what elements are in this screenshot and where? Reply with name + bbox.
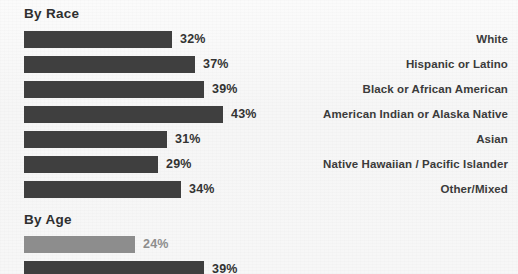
category-label-black-or-african-american: Black or African American [363, 83, 508, 95]
bar-asian [24, 131, 167, 148]
bar-white [24, 31, 172, 48]
category-label-white: White [476, 33, 508, 45]
bar-row-black-or-african-american: 39% Black or African American [0, 81, 518, 98]
category-label-native-hawaiian-pacific-islander: Native Hawaiian / Pacific Islander [323, 158, 508, 170]
bar-row-hispanic-or-latino: 37% Hispanic or Latino [0, 56, 518, 73]
category-label-asian: Asian [476, 133, 508, 145]
bar-row-other-mixed: 34% Other/Mixed [0, 181, 518, 198]
bar-value-other-mixed: 34% [189, 182, 215, 196]
bar-row-age-1: 24% [0, 236, 518, 253]
bar-value-asian: 31% [175, 132, 201, 146]
bar-value-black-or-african-american: 39% [212, 82, 238, 96]
bar-age-2 [24, 261, 204, 274]
bar-native-hawaiian-pacific-islander [24, 156, 158, 173]
bar-value-age-2: 39% [212, 262, 238, 274]
category-label-other-mixed: Other/Mixed [440, 183, 508, 195]
bar-row-age-2: 39% [0, 261, 518, 274]
bar-row-native-hawaiian-pacific-islander: 29% Native Hawaiian / Pacific Islander [0, 156, 518, 173]
bar-american-indian-or-alaska-native [24, 106, 223, 123]
bar-row-white: 32% White [0, 31, 518, 48]
bar-row-american-indian-or-alaska-native: 43% American Indian or Alaska Native [0, 106, 518, 123]
bar-value-american-indian-or-alaska-native: 43% [231, 107, 257, 121]
section-title-by-age: By Age [24, 212, 72, 227]
bar-hispanic-or-latino [24, 56, 195, 73]
category-label-hispanic-or-latino: Hispanic or Latino [406, 58, 508, 70]
bar-black-or-african-american [24, 81, 204, 98]
bar-value-age-1: 24% [143, 237, 169, 251]
bar-age-1 [24, 236, 135, 253]
chart-page: By Race 32% White 37% Hispanic or Latino… [0, 0, 518, 274]
bar-other-mixed [24, 181, 181, 198]
bar-value-white: 32% [180, 32, 206, 46]
category-label-american-indian-or-alaska-native: American Indian or Alaska Native [323, 108, 508, 120]
section-title-by-race: By Race [24, 6, 79, 21]
bar-value-hispanic-or-latino: 37% [203, 57, 229, 71]
bar-row-asian: 31% Asian [0, 131, 518, 148]
bar-value-native-hawaiian-pacific-islander: 29% [166, 157, 192, 171]
